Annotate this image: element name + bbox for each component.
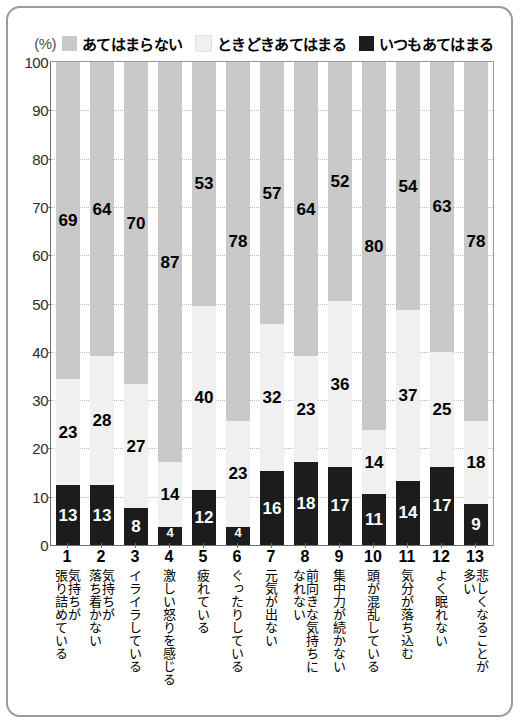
x-axis-category: 5疲れている xyxy=(186,549,220,634)
bar-value-label: 54 xyxy=(399,178,418,195)
x-axis-category-number: 12 xyxy=(424,549,458,565)
x-axis-category-number: 8 xyxy=(288,549,322,565)
bar-column[interactable]: 78234 xyxy=(226,62,250,545)
bar-value-label: 18 xyxy=(297,495,316,512)
bar-column[interactable]: 70278 xyxy=(124,62,148,545)
x-axis-category-text: 疲れている xyxy=(186,569,220,634)
bar-segment[interactable]: 14 xyxy=(362,430,386,494)
bar-segment[interactable]: 64 xyxy=(294,62,318,356)
bar-segment[interactable]: 14 xyxy=(158,462,182,526)
bar-value-label: 23 xyxy=(59,424,78,441)
bar-segment[interactable]: 13 xyxy=(90,485,114,545)
bar-segment[interactable]: 11 xyxy=(362,494,386,545)
bar-column[interactable]: 543714 xyxy=(396,62,420,545)
bar-segment[interactable]: 78 xyxy=(226,62,250,421)
bar-column[interactable]: 523617 xyxy=(328,62,352,545)
bar-segment[interactable]: 87 xyxy=(158,62,182,462)
bar-value-label: 4 xyxy=(234,526,241,539)
x-axis-category-line: 気持ちが xyxy=(67,569,80,621)
bar-segment[interactable]: 54 xyxy=(396,62,420,310)
bar-column[interactable]: 78189 xyxy=(464,62,488,545)
plot-area: 6923136428137027887144534012782345732166… xyxy=(50,62,493,546)
y-axis-tick-label: 50 xyxy=(10,295,48,312)
bar-value-label: 27 xyxy=(127,438,146,455)
bar-segment[interactable]: 78 xyxy=(464,62,488,421)
x-axis-category: 6ぐったりしている xyxy=(220,549,254,673)
bar-segment[interactable]: 8 xyxy=(124,508,148,545)
x-axis-category-text: 気分が落ち込む xyxy=(390,569,424,660)
bar-segment[interactable]: 40 xyxy=(192,306,216,490)
x-axis-category-line: 前向きな気持ちに xyxy=(305,569,318,673)
bar-value-label: 9 xyxy=(471,516,480,533)
bar-segment[interactable]: 4 xyxy=(226,527,250,545)
bar-segment[interactable]: 12 xyxy=(192,490,216,545)
bar-column[interactable]: 632517 xyxy=(430,62,454,545)
bar-column[interactable]: 642813 xyxy=(90,62,114,545)
bar-segment[interactable]: 9 xyxy=(464,504,488,545)
bar-segment[interactable]: 69 xyxy=(56,62,80,379)
bar-segment[interactable]: 64 xyxy=(90,62,114,356)
bar-segment[interactable]: 18 xyxy=(294,462,318,545)
bar-segment[interactable]: 18 xyxy=(464,421,488,504)
bar-column[interactable]: 534012 xyxy=(192,62,216,545)
plot-wrapper: 0102030405060708090100 69231364281370278… xyxy=(8,8,515,719)
y-axis-tick xyxy=(47,448,51,449)
x-axis-category-text: 気持ちが張り詰めている xyxy=(50,569,84,660)
x-axis-category-number: 13 xyxy=(458,549,492,565)
bar-value-label: 17 xyxy=(433,497,452,514)
bar-segment[interactable]: 23 xyxy=(56,379,80,485)
bar-column[interactable]: 573216 xyxy=(260,62,284,545)
bar-segment[interactable]: 4 xyxy=(158,527,182,545)
bar-column[interactable]: 642318 xyxy=(294,62,318,545)
bar-segment[interactable]: 23 xyxy=(226,421,250,527)
bar-segment[interactable]: 17 xyxy=(328,467,352,545)
bar-value-label: 69 xyxy=(59,212,78,229)
x-axis-category-line: 元気が出ない xyxy=(264,569,277,647)
bar-segment[interactable]: 17 xyxy=(430,467,454,545)
bar-segment[interactable]: 27 xyxy=(124,384,148,508)
bar-segment[interactable]: 13 xyxy=(56,485,80,545)
x-axis-category-line: イライラしている xyxy=(128,569,141,673)
y-axis-tick-label: 20 xyxy=(10,440,48,457)
bar-segment[interactable]: 16 xyxy=(260,471,284,545)
bar-segment[interactable]: 63 xyxy=(430,62,454,352)
bar-segment[interactable]: 37 xyxy=(396,310,420,480)
bar-segment[interactable]: 53 xyxy=(192,62,216,306)
x-axis-category: 12よく眠れない xyxy=(424,549,458,647)
bar-value-label: 23 xyxy=(297,401,316,418)
bar-column[interactable]: 87144 xyxy=(158,62,182,545)
bar-value-label: 57 xyxy=(263,185,282,202)
y-axis-tick xyxy=(47,110,51,111)
bar-segment[interactable]: 36 xyxy=(328,301,352,467)
x-axis-category-line: 激しい怒りを感じる xyxy=(162,569,175,686)
bar-segment[interactable]: 57 xyxy=(260,62,284,324)
x-axis-category-line: なれない xyxy=(292,569,305,621)
x-axis-category-text: 気持ちが落ち着かない xyxy=(84,569,118,647)
y-axis-tick xyxy=(47,497,51,498)
bar-value-label: 78 xyxy=(229,233,248,250)
bar-value-label: 28 xyxy=(93,412,112,429)
bar-segment[interactable]: 80 xyxy=(362,62,386,430)
bar-segment[interactable]: 14 xyxy=(396,481,420,545)
bar-segment[interactable]: 23 xyxy=(294,356,318,462)
bar-segment[interactable]: 25 xyxy=(430,352,454,467)
x-axis-category: 1気持ちが張り詰めている xyxy=(50,549,84,660)
y-axis-tick-label: 30 xyxy=(10,392,48,409)
bar-value-label: 4 xyxy=(166,526,173,539)
x-axis-category-number: 10 xyxy=(356,549,390,565)
bar-segment[interactable]: 52 xyxy=(328,62,352,301)
x-axis-category-number: 7 xyxy=(254,549,288,565)
bar-column[interactable]: 692313 xyxy=(56,62,80,545)
bar-segment[interactable]: 28 xyxy=(90,356,114,485)
y-axis-tick-label: 100 xyxy=(10,54,48,71)
bar-value-label: 17 xyxy=(331,497,350,514)
bar-value-label: 53 xyxy=(195,175,214,192)
x-axis-category: 2気持ちが落ち着かない xyxy=(84,549,118,647)
bar-column[interactable]: 801411 xyxy=(362,62,386,545)
bar-value-label: 23 xyxy=(229,465,248,482)
bar-segment[interactable]: 32 xyxy=(260,324,284,471)
x-axis-category-text: 集中力が続かない xyxy=(322,569,356,673)
x-axis-category-line: 多い xyxy=(462,569,475,595)
bar-segment[interactable]: 70 xyxy=(124,62,148,384)
bar-value-label: 18 xyxy=(467,454,486,471)
